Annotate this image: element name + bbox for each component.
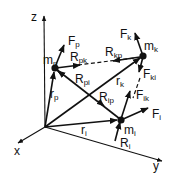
mass-k — [139, 52, 146, 59]
x-axis — [18, 127, 45, 143]
Rpi-label: Rpi — [75, 72, 90, 87]
Rpk-arrow — [56, 65, 80, 68]
Ri-label: Ri — [120, 136, 131, 151]
particle-system-diagram: z x y mp mk mi rp rk ri Fp Fk Fi Fki Fik… — [0, 0, 169, 185]
Fki-label: Fki — [143, 67, 156, 82]
y-axis-label: y — [153, 159, 159, 173]
Fk-arrow — [135, 33, 143, 56]
z-axis-label: z — [31, 10, 37, 24]
mass-p-label: mp — [43, 53, 58, 68]
rk-label: rk — [116, 74, 125, 89]
Rkp-label: Rkp — [105, 45, 123, 60]
Rip-label: Rip — [99, 90, 114, 105]
mass-k-label: mk — [144, 39, 159, 54]
Fk-label: Fk — [120, 27, 132, 42]
Fi-label: Fi — [152, 107, 161, 122]
Fik-label: Fik — [136, 88, 150, 103]
Fik-arrow — [121, 91, 130, 119]
z-axis — [44, 16, 45, 127]
ri-label: ri — [81, 123, 87, 138]
Fp-label: Fp — [68, 34, 80, 49]
Rpk-label: Rpk — [70, 50, 88, 65]
rp-label: rp — [50, 87, 59, 102]
Fi-arrow — [121, 108, 148, 120]
y-axis — [45, 127, 162, 161]
x-axis-label: x — [14, 144, 20, 158]
